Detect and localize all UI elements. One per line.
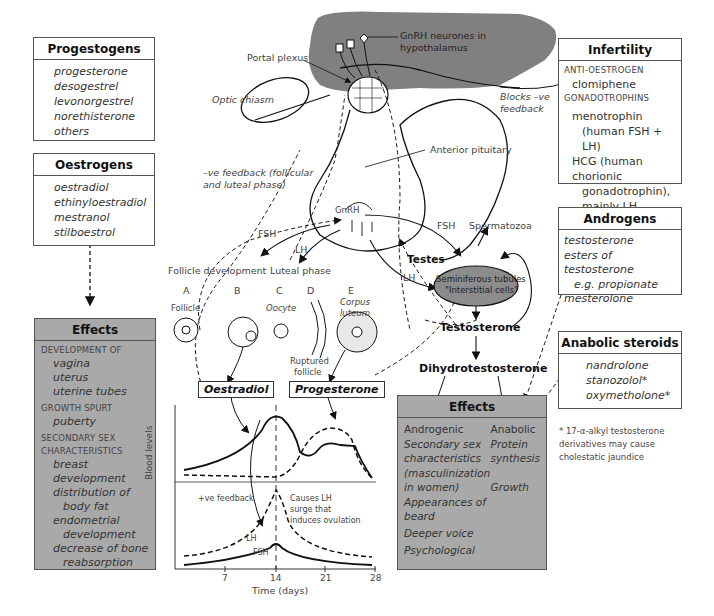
label-line: Blocks –ve [500, 91, 550, 103]
label-line: luteum [340, 308, 370, 319]
pos-feedback-label: +ve feedback [198, 494, 254, 503]
testosterone-label: Testosterone [440, 321, 520, 334]
oestrogens-box: Oestrogens oestradiol ethinyloestradiol … [33, 153, 155, 246]
testes-label: Testes [407, 253, 445, 265]
luteal-phase-label: Luteal phase [270, 265, 331, 276]
list-item: Secondary sex [404, 437, 491, 452]
footnote-line: cholestatic jaundice [559, 451, 664, 464]
list-item: uterine tubes [41, 385, 149, 399]
list-item: (masculinization [404, 466, 491, 481]
list-item: HCG (human chorionic [564, 154, 676, 184]
androgen-effects-title: Effects [398, 396, 546, 418]
spermatozoa-label: Spermatozoa [469, 220, 532, 231]
list-item: gonadotrophin), [564, 184, 676, 199]
stage-b-label: B [234, 285, 241, 296]
seminiferous-label: Seminiferous tubules [436, 274, 526, 284]
follicle-development-label: Follicle development [168, 265, 266, 276]
section-heading: GONADOTROPHINS [564, 92, 676, 105]
progesterone-box: Progesterone [289, 381, 385, 398]
anabolic-steroids-title: Anabolic steroids [559, 332, 681, 354]
label-line: Corpus [340, 297, 370, 308]
fsh-right-label: FSH [437, 220, 455, 231]
anabolic-footnote: * 17-α-alkyl testosterone derivatives ma… [559, 425, 664, 464]
label-line: –ve feedback (follicular [203, 167, 313, 179]
x-tick-28: 28 [370, 573, 381, 583]
list-item: in women) [404, 480, 491, 495]
list-item: puberty [41, 415, 149, 429]
fsh-curve-label: FSH [253, 548, 269, 557]
list-item: e.g. propionate [564, 278, 676, 293]
anterior-pituitary-shape [310, 99, 508, 260]
list-item: endometrial [41, 514, 149, 528]
gnrh-label: GnRH [335, 205, 359, 215]
lh-right-label: LH [403, 272, 415, 283]
neg-feedback-label: –ve feedback (follicular and luteal phas… [203, 167, 313, 191]
label-line: hypothalamus [400, 42, 486, 54]
list-item: menotrophin [564, 109, 676, 124]
label-line: Ruptured [290, 356, 329, 367]
dihydrotestosterone-label: Dihydrotestosterone [419, 362, 547, 375]
list-item: beard [404, 509, 491, 524]
list-item: reabsorption [41, 556, 149, 570]
list-item: nandrolone [586, 358, 676, 373]
list-item: decrease of bone [41, 542, 149, 556]
stage-d-label: D [307, 285, 314, 296]
label-line: follicle [290, 367, 329, 378]
list-item: characteristics [404, 451, 491, 466]
optic-chiasm-label: Optic chiasm [212, 94, 274, 105]
list-item: others [54, 124, 146, 139]
footnote-line: * 17-α-alkyl testosterone [559, 425, 664, 438]
x-tick-21: 21 [320, 573, 331, 583]
list-item: breast development [41, 458, 149, 486]
footnote-line: derivatives may cause [559, 438, 664, 451]
list-item: Psychological [404, 543, 491, 558]
stage-c-label: C [276, 285, 283, 296]
fsh-left-label: FSH [258, 228, 276, 239]
x-tick-7: 7 [222, 573, 228, 583]
blocks-feedback-label: Blocks –ve feedback [500, 91, 550, 115]
gnrh-neurones-label: GnRH neurones in hypothalamus [400, 30, 486, 54]
x-tick-14: 14 [270, 573, 281, 583]
list-item: Appearances of [404, 495, 491, 510]
anterior-pituitary-label: Anterior pituitary [430, 144, 512, 155]
section-heading: SECONDARY SEX CHARACTERISTICS [41, 432, 121, 458]
progestogens-box: Progestogens progesterone desogestrel le… [33, 37, 155, 141]
list-item: synthesis [491, 451, 540, 466]
list-item: stanozolol* [586, 373, 676, 388]
anabolic-steroids-box: Anabolic steroids nandrolone stanozolol*… [558, 331, 682, 409]
label-line: feedback [500, 103, 550, 115]
list-item: esters of testosterone [564, 249, 676, 278]
section-heading: DEVELOPMENT OF [41, 344, 149, 357]
list-item: body fat [41, 500, 149, 514]
list-item: uterus [41, 371, 149, 385]
section-heading: ANTI-OESTROGEN [564, 64, 676, 77]
androgenic-heading: Androgenic [404, 422, 491, 437]
label-line: induces ovulation [290, 515, 361, 526]
androgen-effects-box: Effects Androgenic Secondary sex charact… [397, 395, 547, 570]
list-item: Protein [491, 437, 540, 452]
label-line: and luteal phase) [203, 179, 313, 191]
androgenic-column: Androgenic Secondary sex characteristics… [404, 422, 491, 558]
list-item: (human FSH + LH) [564, 124, 676, 154]
list-item: mestranol [54, 210, 146, 225]
label-line: GnRH neurones in [400, 30, 486, 42]
list-item: Growth [491, 480, 540, 495]
androgens-box: Androgens testosterone esters of testost… [558, 207, 682, 295]
androgens-title: Androgens [559, 208, 681, 230]
label-line: surge that [290, 504, 361, 515]
portal-plexus-label: Portal plexus [247, 52, 308, 63]
list-item: vagina [41, 357, 149, 371]
lh-curve-label: LH [246, 534, 256, 543]
follicle-label: Follicle [171, 303, 200, 313]
progestogens-title: Progestogens [34, 38, 154, 60]
chart-xlabel: Time (days) [252, 585, 308, 596]
infertility-title: Infertility [559, 39, 681, 61]
causes-lh-label: Causes LH surge that induces ovulation [290, 493, 361, 526]
lh-left-label: LH [295, 244, 307, 255]
oestrogen-effects-box: Effects DEVELOPMENT OF vagina uterus ute… [34, 318, 156, 570]
list-item: Deeper voice [404, 526, 491, 541]
list-item: clomiphene [564, 77, 676, 92]
anabolic-column: Anabolic Protein synthesis Growth [491, 422, 540, 558]
list-item: mesterolone [564, 292, 676, 307]
stage-e-label: E [348, 285, 354, 296]
